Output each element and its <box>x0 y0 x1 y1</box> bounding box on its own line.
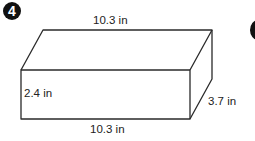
height-label: 2.4 in <box>24 88 52 100</box>
bottom-length-label: 10.3 in <box>90 124 125 136</box>
top-face <box>21 30 212 70</box>
depth-label: 3.7 in <box>208 96 236 108</box>
top-length-label: 10.3 in <box>93 15 128 27</box>
